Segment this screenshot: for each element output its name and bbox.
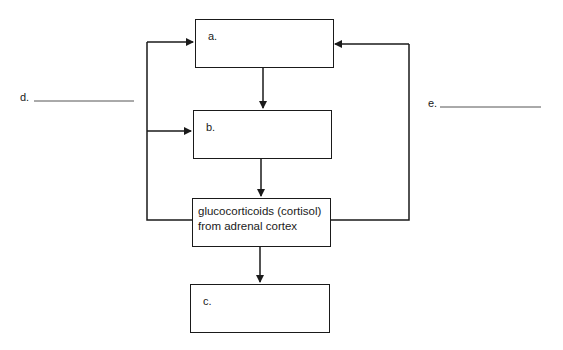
box-b-label: b. — [206, 121, 215, 133]
box-a: a. — [195, 19, 334, 68]
box-c-label: c. — [203, 295, 212, 307]
box-a-label: a. — [208, 30, 217, 42]
gluco-line-1: glucocorticoids (cortisol) — [198, 204, 321, 219]
box-c: c. — [190, 284, 330, 333]
right-feedback-line — [330, 44, 409, 220]
gluco-line-2: from adrenal cortex — [198, 219, 321, 234]
box-glucocorticoids: glucocorticoids (cortisol) from adrenal … — [192, 198, 331, 247]
blank-e-label: e. — [428, 97, 437, 109]
blank-d-label: d. — [20, 91, 29, 103]
box-glucocorticoids-text: glucocorticoids (cortisol) from adrenal … — [198, 204, 321, 234]
box-b: b. — [193, 110, 332, 159]
